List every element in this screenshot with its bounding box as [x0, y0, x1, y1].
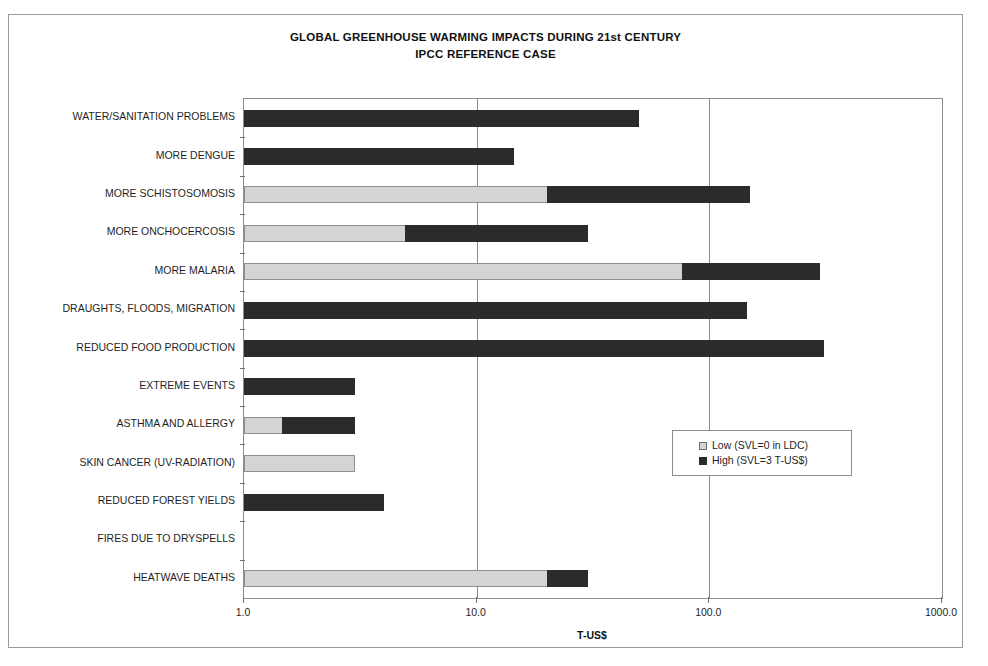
chart-subtitle: IPCC REFERENCE CASE — [9, 46, 962, 63]
category-label: FIRES DUE TO DRYSPELLS — [97, 532, 235, 544]
category-label: MORE SCHISTOSOMOSIS — [105, 187, 235, 199]
bar-group — [244, 378, 355, 395]
value-axis-tick — [708, 597, 709, 603]
category-label: ASTHMA AND ALLERGY — [117, 417, 235, 429]
category-label: REDUCED FOREST YIELDS — [98, 494, 235, 506]
category-label: HEATWAVE DEATHS — [133, 571, 235, 583]
bar-segment-low — [244, 570, 547, 587]
bar-group — [244, 225, 588, 242]
category-label: SKIN CANCER (UV-RADIATION) — [79, 456, 235, 468]
category-label: MORE ONCHOCERCOSIS — [107, 225, 235, 237]
value-axis-tick-label: 100.0 — [695, 606, 721, 618]
legend-swatch-low-icon — [699, 442, 707, 450]
bar-segment-high — [547, 186, 751, 203]
chart-legend: Low (SVL=0 in LDC) High (SVL=3 T-US$) — [672, 430, 852, 476]
bar-group — [244, 263, 820, 280]
bar-group — [244, 570, 588, 587]
category-tick — [240, 444, 245, 445]
legend-item-low: Low (SVL=0 in LDC) — [699, 438, 851, 453]
category-label: EXTREME EVENTS — [139, 379, 235, 391]
bar-group — [244, 340, 824, 357]
category-axis-labels: WATER/SANITATION PROBLEMSMORE DENGUEMORE… — [9, 98, 243, 597]
bar-group — [244, 417, 355, 434]
category-tick — [240, 406, 245, 407]
value-axis-tick-label: 10.0 — [465, 606, 485, 618]
chart-title: GLOBAL GREENHOUSE WARMING IMPACTS DURING… — [9, 29, 962, 46]
category-tick — [240, 137, 245, 138]
value-axis-title: T-US$ — [243, 629, 941, 641]
category-tick — [240, 253, 245, 254]
category-tick — [240, 368, 245, 369]
category-label: WATER/SANITATION PROBLEMS — [73, 110, 235, 122]
bar-group — [244, 302, 747, 319]
value-axis-tick — [243, 597, 244, 603]
legend-item-high: High (SVL=3 T-US$) — [699, 453, 851, 468]
legend-swatch-high-icon — [699, 457, 707, 465]
category-tick — [240, 176, 245, 177]
bar-segment-high — [244, 302, 747, 319]
figure-frame: GLOBAL GREENHOUSE WARMING IMPACTS DURING… — [8, 14, 963, 648]
bar-segment-high — [244, 148, 514, 165]
category-tick — [240, 291, 245, 292]
bar-segment-high — [244, 340, 824, 357]
bar-segment-low — [244, 225, 405, 242]
bar-segment-low — [244, 455, 355, 472]
value-axis-tick — [476, 597, 477, 603]
bar-segment-high — [244, 110, 639, 127]
bar-group — [244, 494, 384, 511]
bar-segment-high — [244, 494, 384, 511]
category-tick — [240, 483, 245, 484]
value-axis-tick — [941, 597, 942, 603]
category-tick — [240, 329, 245, 330]
value-axis: 1.010.0100.01000.0 — [243, 597, 943, 657]
legend-label-high: High (SVL=3 T-US$) — [712, 453, 808, 468]
value-axis-tick-label: 1.0 — [236, 606, 251, 618]
category-label: REDUCED FOOD PRODUCTION — [76, 341, 235, 353]
chart-title-block: GLOBAL GREENHOUSE WARMING IMPACTS DURING… — [9, 29, 962, 63]
category-label: DRAUGHTS, FLOODS, MIGRATION — [63, 302, 235, 314]
bar-group — [244, 148, 514, 165]
bar-group — [244, 186, 750, 203]
category-tick — [240, 560, 245, 561]
category-label: MORE DENGUE — [156, 149, 235, 161]
bar-segment-high — [547, 570, 588, 587]
category-tick — [240, 521, 245, 522]
category-tick — [240, 214, 245, 215]
plot-area — [243, 98, 943, 599]
bar-segment-low — [244, 186, 547, 203]
value-axis-tick-label: 1000.0 — [925, 606, 957, 618]
bar-segment-high — [405, 225, 588, 242]
bar-segment-high — [282, 417, 355, 434]
bar-segment-low — [244, 417, 282, 434]
bar-segment-low — [244, 263, 682, 280]
bar-group — [244, 455, 355, 472]
bar-segment-high — [244, 378, 355, 395]
bar-segment-high — [682, 263, 821, 280]
category-label: MORE MALARIA — [154, 264, 235, 276]
bar-group — [244, 110, 639, 127]
legend-label-low: Low (SVL=0 in LDC) — [712, 438, 808, 453]
